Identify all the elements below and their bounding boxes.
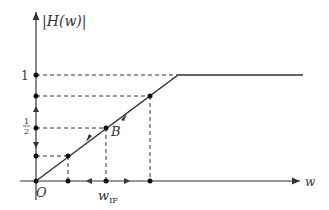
left-arrow-icon bbox=[86, 178, 92, 184]
transfer-function-diagram: |H(w)| 1 1 2 B O wIF w bbox=[0, 0, 329, 210]
tick-one-label: 1 bbox=[21, 69, 29, 83]
tick-half-den: 2 bbox=[24, 127, 29, 136]
tick-half-num: 1 bbox=[24, 117, 29, 126]
origin-label: O bbox=[36, 185, 47, 200]
point-b-label: B bbox=[110, 124, 121, 139]
y-axis-label: |H(w)| bbox=[42, 13, 87, 30]
up-arrow-icon bbox=[33, 106, 39, 112]
x-marker-label: wIF bbox=[98, 188, 118, 205]
down-arrow-icon bbox=[33, 142, 39, 148]
x-axis-label: w bbox=[305, 175, 316, 189]
response-curve bbox=[36, 75, 303, 181]
right-arrow-icon bbox=[124, 178, 130, 184]
